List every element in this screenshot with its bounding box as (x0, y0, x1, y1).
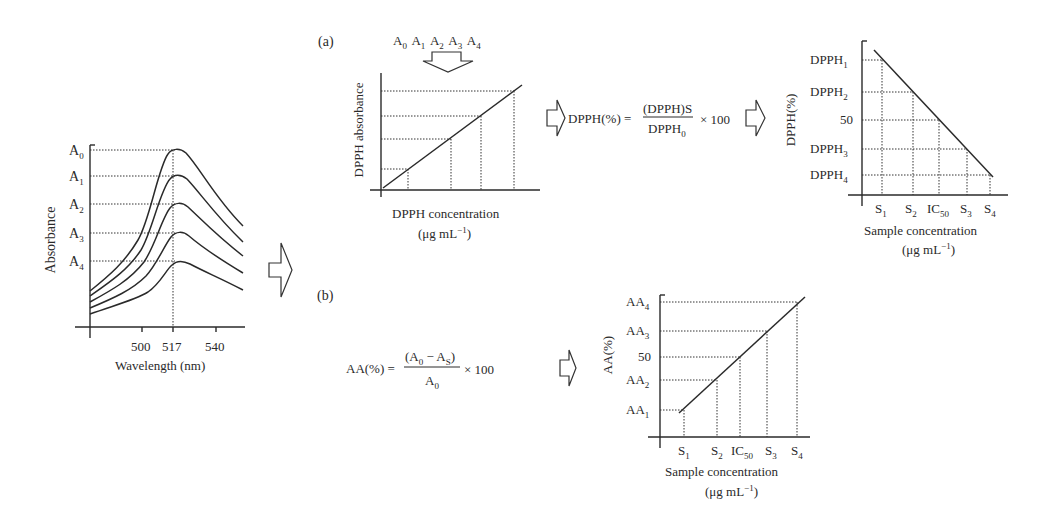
right-arrow-icon (560, 350, 576, 386)
svg-text:AA1: AA1 (626, 402, 649, 420)
spectrum-curve-a4 (90, 262, 243, 315)
svg-text:S4: S4 (984, 201, 996, 219)
dpph-percent-chart: DPPH1 DPPH2 50 DPPH3 DPPH4 S1 S2 IC50 S3… (783, 41, 1008, 257)
svg-text:DPPH1: DPPH1 (810, 52, 848, 70)
panel-b-label: (b) (317, 288, 334, 304)
absorbance-spectrum-chart: A0 A1 A2 A3 A4 500 517 540 Wavelength (n… (43, 143, 245, 373)
aa-percent-y-label: AA(%) (600, 336, 615, 374)
aa-percent-x-label: Sample concentration (665, 464, 778, 479)
svg-text:DPPH3: DPPH3 (810, 141, 848, 159)
svg-text:AA4: AA4 (626, 294, 650, 312)
formula-numerator: (DPPH)S (643, 101, 692, 116)
down-arrow-icon (423, 52, 473, 72)
svg-text:A0 A1 A2 A3: A0 A1 A2 A3 A4 (393, 33, 481, 52)
right-arrow-icon (547, 100, 565, 136)
right-arrow-icon (269, 243, 292, 297)
dpph-percent-x-label: Sample concentration (864, 223, 977, 238)
spectrum-curve-a0 (90, 149, 243, 291)
calibration-x-label: DPPH concentration (392, 206, 500, 221)
x-tick-500: 500 (131, 339, 151, 354)
dpph-calibration-chart: DPPH absorbance DPPH concentration (μg m… (351, 73, 540, 241)
formula-lhs: DPPH(%) = (568, 111, 631, 126)
formula-multiplier: × 100 (464, 362, 494, 377)
svg-text:S3: S3 (765, 443, 777, 461)
y-tick-a2: A2 (69, 197, 84, 215)
svg-text:50: 50 (840, 112, 853, 127)
svg-text:50: 50 (638, 349, 651, 364)
dpph-percent-formula: DPPH(%) = (DPPH)S DPPH0 × 100 (568, 101, 730, 139)
spectrum-y-ticks: A0 A1 A2 A3 A4 (69, 143, 84, 272)
svg-text:S1: S1 (875, 201, 887, 219)
y-tick-a4: A4 (69, 254, 84, 272)
calibration-x-unit: (μg mL−1) (418, 225, 471, 241)
aa-percent-x-unit: (μg mL−1) (705, 483, 758, 499)
dpph-assay-diagram: A0 A1 A2 A3 A4 500 517 540 Wavelength (n… (0, 0, 1039, 522)
calibration-line (383, 85, 522, 188)
aa-percent-formula: AA(%) = (A0 − AS) A0 × 100 (346, 349, 494, 391)
formula-multiplier: × 100 (700, 112, 730, 127)
y-tick-a1: A1 (69, 169, 84, 187)
formula-denominator: DPPH0 (648, 121, 686, 139)
right-arrow-icon (746, 100, 765, 136)
svg-text:S4: S4 (791, 443, 803, 461)
x-tick-540: 540 (205, 339, 225, 354)
svg-text:S2: S2 (711, 443, 723, 461)
panel-a-label: (a) (318, 34, 334, 50)
x-tick-517: 517 (162, 339, 182, 354)
calibration-y-label: DPPH absorbance (351, 82, 366, 177)
svg-text:IC50: IC50 (731, 443, 754, 461)
svg-text:S3: S3 (960, 201, 972, 219)
formula-numerator: (A0 − AS) (405, 349, 455, 367)
absorbance-input-labels: A0 A1 A2 A3 A4 (393, 33, 481, 52)
spectrum-x-label: Wavelength (nm) (115, 358, 205, 373)
spectrum-y-label: Absorbance (43, 207, 58, 274)
svg-text:AA2: AA2 (626, 372, 649, 390)
svg-text:S2: S2 (905, 201, 917, 219)
svg-text:DPPH2: DPPH2 (810, 84, 848, 102)
svg-text:IC50: IC50 (927, 201, 950, 219)
formula-denominator: A0 (425, 373, 439, 391)
formula-lhs: AA(%) = (346, 361, 395, 376)
dpph-decline-line (874, 50, 993, 177)
spectrum-curve-a3 (90, 232, 243, 308)
y-tick-a0: A0 (69, 143, 84, 161)
aa-percent-chart: AA4 AA3 50 AA2 AA1 S1 S2 IC50 S3 S4 AA(%… (600, 294, 810, 499)
aa-increase-line (679, 297, 805, 413)
y-tick-a3: A3 (69, 226, 84, 244)
dpph-percent-x-unit: (μg mL−1) (902, 241, 955, 257)
svg-text:DPPH4: DPPH4 (810, 167, 848, 185)
svg-text:S1: S1 (678, 443, 690, 461)
dpph-percent-y-label: DPPH(%) (783, 94, 798, 147)
svg-text:AA3: AA3 (626, 323, 650, 341)
